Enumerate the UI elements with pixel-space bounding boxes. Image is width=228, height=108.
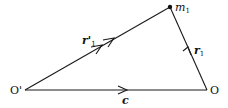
label-r-prime-1: r'1 — [82, 35, 96, 48]
mass-point-m1 — [168, 5, 172, 9]
label-m1: m1 — [175, 2, 190, 15]
label-o-prime: O' — [10, 85, 22, 96]
label-r1: r1 — [194, 45, 204, 58]
label-c: c — [122, 95, 129, 106]
label-o: O — [210, 85, 219, 96]
arrowhead-r1 — [183, 47, 191, 55]
vector-r-prime-1-line — [25, 7, 170, 90]
